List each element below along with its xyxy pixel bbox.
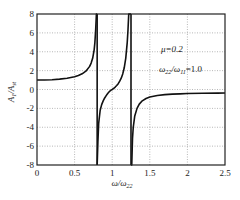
annotation-frequency-ratio: ω22/ω11=1.0 — [159, 64, 203, 75]
y-tick-label: -4 — [27, 122, 35, 132]
y-tick-label: -2 — [27, 103, 35, 113]
x-axis-ticks: 00.511.522.5 — [35, 168, 231, 178]
x-tick-label: 0.5 — [69, 168, 81, 178]
y-tick-label: -8 — [27, 160, 35, 170]
y-tick-label: 0 — [30, 85, 35, 95]
x-tick-label: 0 — [35, 168, 40, 178]
curve-branch — [131, 93, 225, 165]
y-axis-ticks: -8-6-4-202468 — [27, 9, 35, 170]
y-tick-label: 6 — [30, 28, 35, 38]
x-tick-label: 1.5 — [144, 168, 156, 178]
annotation-mu: μ=0.2 — [160, 44, 183, 54]
x-axis-label: ω/ω22 — [111, 178, 132, 189]
y-tick-label: -6 — [27, 141, 35, 151]
y-tick-label: 2 — [30, 66, 35, 76]
x-tick-label: 2.5 — [219, 168, 231, 178]
y-axis-label: A1/Ast — [6, 81, 17, 103]
curve-branch — [37, 14, 97, 80]
y-tick-label: 8 — [30, 9, 35, 19]
chart: -8-6-4-202468 00.511.522.5 ω/ω22 A1/Ast … — [0, 0, 240, 200]
y-tick-label: 4 — [30, 47, 35, 57]
x-tick-label: 2 — [185, 168, 190, 178]
x-tick-label: 1 — [110, 168, 115, 178]
